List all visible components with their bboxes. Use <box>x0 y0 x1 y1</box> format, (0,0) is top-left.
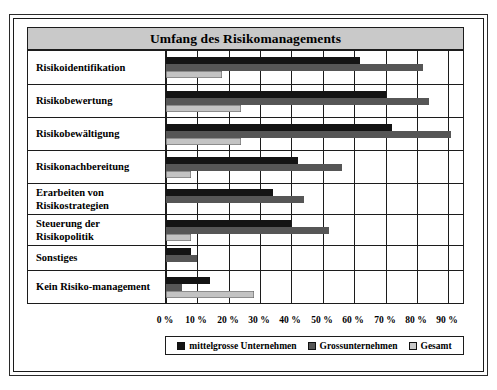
category-label: Erarbeiten vonRisikostrategien <box>28 184 166 214</box>
bar <box>166 64 423 71</box>
category-label: Risikonachbereitung <box>28 151 166 183</box>
legend-swatch <box>177 342 185 350</box>
x-axis-tick-labels: 0 %10 %20 %30 %40 %50 %60 %70 %80 %90 % <box>165 315 464 331</box>
category-label-line: Risikostrategien <box>36 199 165 212</box>
chart-title-bar: Umfang des Risikomanagements <box>27 27 464 50</box>
x-tick-label: 30 % <box>248 315 269 325</box>
bar <box>166 157 298 164</box>
plot-cell <box>166 85 463 117</box>
chart-row: Kein Risiko-management <box>27 271 464 304</box>
category-label: Steuerung derRisikopolitik <box>28 215 166 245</box>
bar <box>166 91 386 98</box>
bar <box>166 105 241 112</box>
x-tick-label: 70 % <box>374 315 395 325</box>
x-tick-label: 20 % <box>217 315 238 325</box>
bar <box>166 227 329 234</box>
plot-cell <box>166 51 463 84</box>
plot-cell <box>166 271 463 303</box>
x-tick-label: 80 % <box>405 315 426 325</box>
bar <box>166 171 191 178</box>
chart-row: Erarbeiten vonRisikostrategien <box>27 184 464 215</box>
chart-legend: mittelgrosse UnternehmenGrossunternehmen… <box>165 336 464 355</box>
chart-plot-table: RisikoidentifikationRisikobewertungRisik… <box>27 50 464 313</box>
bar <box>166 57 360 64</box>
plot-cell <box>166 118 463 150</box>
category-label: Risikoidentifikation <box>28 51 166 84</box>
bar-group <box>166 215 463 245</box>
bar <box>166 291 254 298</box>
bar <box>166 220 291 227</box>
bar <box>166 255 197 262</box>
chart-row: Risikoidentifikation <box>27 50 464 85</box>
bar <box>166 234 191 241</box>
plot-cell <box>166 184 463 214</box>
bar-group <box>166 118 463 150</box>
bar <box>166 196 304 203</box>
chart-row: Steuerung derRisikopolitik <box>27 215 464 246</box>
bar-group <box>166 271 463 303</box>
bar <box>166 284 182 291</box>
bar-group <box>166 246 463 270</box>
x-tick-label: 10 % <box>185 315 206 325</box>
bar <box>166 98 429 105</box>
category-label: Risikobewältigung <box>28 118 166 150</box>
category-label-line: Risikopolitik <box>36 230 165 243</box>
bar <box>166 248 191 255</box>
plot-cell <box>166 215 463 245</box>
legend-label: Gesamt <box>421 341 452 351</box>
x-tick-label: 60 % <box>342 315 363 325</box>
category-label: Sonstiges <box>28 246 166 270</box>
bar-group <box>166 151 463 183</box>
legend-item: Grossunternehmen <box>308 341 398 351</box>
bar <box>166 277 210 284</box>
chart-title: Umfang des Risikomanagements <box>150 31 341 47</box>
category-label-line: Steuerung der <box>36 217 165 230</box>
x-tick-label: 0 % <box>157 315 174 325</box>
legend-swatch <box>409 342 417 350</box>
category-label-line: Erarbeiten von <box>36 186 165 199</box>
chart-row: Risikobewertung <box>27 85 464 118</box>
chart-row: Risikobewältigung <box>27 118 464 151</box>
bar <box>166 124 392 131</box>
x-tick-label: 40 % <box>279 315 300 325</box>
category-label: Kein Risiko-management <box>28 271 166 303</box>
bar <box>166 164 342 171</box>
bar-group <box>166 184 463 214</box>
chart-row: Risikonachbereitung <box>27 151 464 184</box>
bar <box>166 138 241 145</box>
chart-figure: Umfang des Risikomanagements Risikoident… <box>9 14 488 376</box>
bar-group <box>166 85 463 117</box>
bar <box>166 189 273 196</box>
plot-cell <box>166 246 463 270</box>
legend-item: mittelgrosse Unternehmen <box>177 341 296 351</box>
legend-label: mittelgrosse Unternehmen <box>189 341 296 351</box>
x-tick-label: 50 % <box>311 315 332 325</box>
legend-swatch <box>308 342 316 350</box>
legend-label: Grossunternehmen <box>320 341 398 351</box>
bar <box>166 71 222 78</box>
bar-group <box>166 51 463 84</box>
legend-item: Gesamt <box>409 341 452 351</box>
plot-cell <box>166 151 463 183</box>
x-tick-label: 90 % <box>436 315 457 325</box>
category-label: Risikobewertung <box>28 85 166 117</box>
bar <box>166 131 451 138</box>
chart-row: Sonstiges <box>27 246 464 271</box>
